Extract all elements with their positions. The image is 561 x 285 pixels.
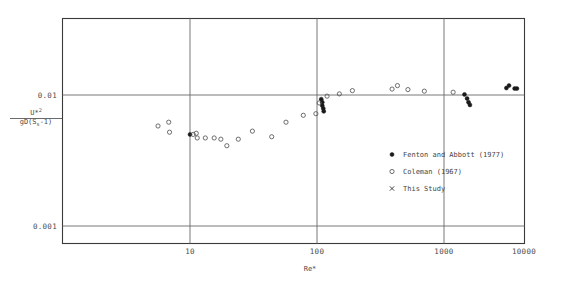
- data-point: [156, 124, 160, 128]
- data-point: [219, 137, 223, 141]
- x-tick-label-10: 10: [185, 247, 195, 256]
- chart-figure: U*2 gD(Ss-1) 0.01 0.001 10 100 1000 1000…: [0, 0, 561, 285]
- y-tick-label-0.001: 0.001: [33, 222, 57, 231]
- data-point: [167, 120, 171, 124]
- data-point: [301, 113, 305, 117]
- data-point: [270, 135, 274, 139]
- legend-label-1: Coleman (1967): [403, 168, 462, 176]
- plot-frame: [63, 19, 525, 244]
- legend-marker-0: [390, 153, 394, 157]
- data-point: [395, 83, 399, 87]
- data-point: [167, 130, 171, 134]
- data-point: [451, 90, 455, 94]
- series-0: [188, 84, 519, 137]
- legend-label-0: Fenton and Abbott (1977): [403, 151, 504, 159]
- data-point: [225, 144, 229, 148]
- data-point: [422, 89, 426, 93]
- data-points-layer: [156, 83, 519, 147]
- data-point: [250, 129, 254, 133]
- chart-svg: 0.01 0.001 10 100 1000 10000 Re* Fenton …: [0, 0, 561, 285]
- data-point: [322, 109, 326, 113]
- data-point: [515, 87, 519, 91]
- legend-marker-2: [390, 186, 394, 190]
- data-point: [236, 137, 240, 141]
- x-tick-label-100: 100: [310, 247, 325, 256]
- legend-marker-1: [390, 169, 394, 173]
- x-tick-label-10000: 10000: [512, 247, 536, 256]
- data-point: [284, 120, 288, 124]
- series-1: [156, 83, 455, 147]
- data-point: [350, 89, 354, 93]
- data-point: [203, 136, 207, 140]
- y-tick-label-0.01: 0.01: [38, 91, 57, 100]
- data-point: [406, 87, 410, 91]
- data-point: [462, 92, 466, 96]
- data-point: [195, 136, 199, 140]
- x-tick-label-1000: 1000: [434, 247, 453, 256]
- data-point: [390, 87, 394, 91]
- data-point: [465, 97, 469, 101]
- data-point: [507, 84, 511, 88]
- x-axis-title: Re*: [304, 265, 317, 273]
- legend-label-2: This Study: [403, 185, 445, 193]
- chart-legend: Fenton and Abbott (1977)Coleman (1967)Th…: [390, 151, 504, 193]
- data-point: [468, 103, 472, 107]
- data-point: [212, 136, 216, 140]
